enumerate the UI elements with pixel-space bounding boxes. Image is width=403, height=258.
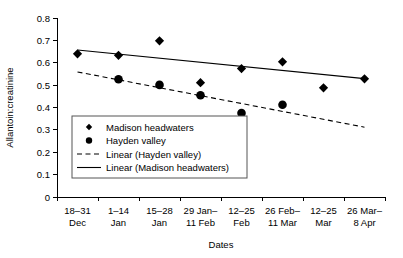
- x-tick-label: 11 Mar: [268, 217, 297, 228]
- x-tick-label: Mar: [315, 217, 331, 228]
- data-point-madison: [319, 83, 328, 92]
- data-point-hayden: [155, 81, 164, 90]
- x-tick-label: 26 Mar–: [347, 205, 383, 216]
- y-tick-label: 0: [45, 192, 50, 203]
- x-tick-label: 29 Jan–: [184, 205, 219, 216]
- x-tick-label: 12–25: [310, 205, 336, 216]
- y-tick-label: 0.1: [37, 169, 50, 180]
- data-point-madison: [278, 57, 287, 66]
- x-axis-title: Dates: [209, 239, 234, 250]
- data-point-madison: [114, 51, 123, 60]
- y-tick-label: 0.4: [37, 102, 50, 113]
- x-tick-label: 26 Feb–: [265, 205, 301, 216]
- x-tick-label: 8 Apr: [353, 217, 375, 228]
- data-point-madison: [360, 74, 369, 83]
- x-tick-label: 18–31: [64, 205, 90, 216]
- x-tick-label: 12–25: [228, 205, 254, 216]
- chart-figure: 00.10.20.30.40.50.60.70.818–31Dec1–14Jan…: [0, 0, 403, 258]
- x-tick-label: 11 Feb: [186, 217, 215, 228]
- x-tick-label: 1–14: [108, 205, 129, 216]
- y-tick-label: 0.5: [37, 80, 50, 91]
- x-tick-label: Feb: [233, 217, 249, 228]
- legend-marker-circle: [86, 137, 92, 143]
- y-tick-label: 0.3: [37, 124, 50, 135]
- scatter-plot: 00.10.20.30.40.50.60.70.818–31Dec1–14Jan…: [0, 0, 403, 258]
- data-point-madison: [155, 36, 164, 45]
- legend-label: Madison headwaters: [106, 122, 194, 133]
- y-tick-label: 0.2: [37, 147, 50, 158]
- x-tick-label: Jan: [152, 217, 167, 228]
- x-tick-label: Dec: [69, 217, 86, 228]
- x-tick-label: 15–28: [146, 205, 172, 216]
- data-point-madison: [196, 78, 205, 87]
- y-tick-label: 0.6: [37, 57, 50, 68]
- legend-label: Linear (Hayden valley): [106, 149, 201, 160]
- x-tick-label: Jan: [111, 217, 126, 228]
- legend-label: Hayden valley: [106, 135, 166, 146]
- y-tick-label: 0.7: [37, 35, 50, 46]
- data-point-hayden: [278, 101, 287, 110]
- data-point-hayden: [196, 91, 205, 100]
- data-point-madison: [237, 64, 246, 73]
- legend-label: Linear (Madison headwaters): [106, 162, 229, 173]
- y-tick-label: 0.8: [37, 13, 50, 24]
- y-axis-title: Allantoin:creatinine: [4, 67, 15, 147]
- data-point-hayden: [114, 75, 123, 84]
